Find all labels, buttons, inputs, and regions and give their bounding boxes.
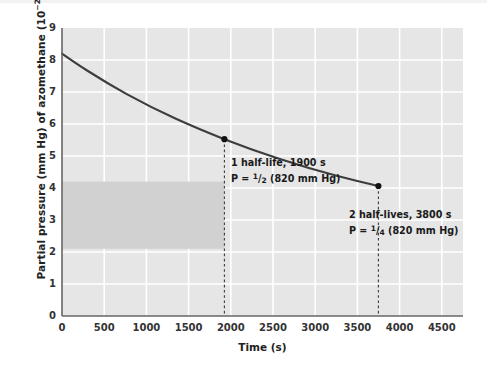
marker-half-life-2 <box>375 183 381 189</box>
y-axis-label-text: Partial pressure (mm Hg) of azomethane (… <box>35 11 47 280</box>
annotation-half-life-2-line2: P = 1/4 (820 mm Hg) <box>349 222 458 240</box>
y-tick-label-2: 2 <box>42 246 56 257</box>
chart-figure: Partial pressure (mm Hg) of azomethane (… <box>0 0 487 370</box>
annotation-2-fraction: 1/4 <box>371 222 385 240</box>
y-tick-label-6: 6 <box>42 118 56 129</box>
x-tick-label-2500: 2500 <box>253 322 293 333</box>
annotation-1-fraction: 1/2 <box>253 170 267 188</box>
shaded-region <box>62 182 224 249</box>
x-tick-label-4500: 4500 <box>422 322 462 333</box>
annotation-half-life-1-line2: P = 1/2 (820 mm Hg) <box>231 170 340 188</box>
annotation-1-denominator: 2 <box>261 176 266 185</box>
annotation-2-denominator: 4 <box>379 228 384 237</box>
y-tick-label-4: 4 <box>42 182 56 193</box>
annotation-half-life-1-line1: 1 half-life, 1900 s <box>231 156 340 170</box>
y-tick-label-1: 1 <box>42 278 56 289</box>
annotation-2-p-suffix: (820 mm Hg) <box>385 225 459 236</box>
annotation-half-life-1: 1 half-life, 1900 s P = 1/2 (820 mm Hg) <box>231 156 340 187</box>
x-tick-label-3500: 3500 <box>337 322 377 333</box>
y-tick-label-7: 7 <box>42 86 56 97</box>
y-tick-label-9: 9 <box>42 22 56 33</box>
annotation-1-p-suffix: (820 mm Hg) <box>267 173 341 184</box>
x-tick-label-4000: 4000 <box>380 322 420 333</box>
y-tick-label-3: 3 <box>42 214 56 225</box>
annotation-2-p-prefix: P = <box>349 225 371 236</box>
x-tick-label-1000: 1000 <box>126 322 166 333</box>
x-tick-label-3000: 3000 <box>295 322 335 333</box>
y-tick-label-8: 8 <box>42 54 56 65</box>
annotation-half-life-2-line1: 2 half-lives, 3800 s <box>349 208 458 222</box>
x-tick-label-500: 500 <box>84 322 124 333</box>
y-tick-label-5: 5 <box>42 150 56 161</box>
marker-half-life-1 <box>221 136 227 142</box>
y-axis-label-exponent: −2 <box>33 0 42 11</box>
x-axis-label: Time (s) <box>62 341 463 353</box>
y-tick-label-0: 0 <box>42 310 56 321</box>
x-tick-label-2000: 2000 <box>211 322 251 333</box>
y-axis-label: Partial pressure (mm Hg) of azomethane (… <box>33 0 47 282</box>
annotation-1-p-prefix: P = <box>231 173 253 184</box>
x-tick-label-1500: 1500 <box>169 322 209 333</box>
annotation-half-life-2: 2 half-lives, 3800 s P = 1/4 (820 mm Hg) <box>349 208 458 239</box>
x-tick-label-0: 0 <box>42 322 82 333</box>
